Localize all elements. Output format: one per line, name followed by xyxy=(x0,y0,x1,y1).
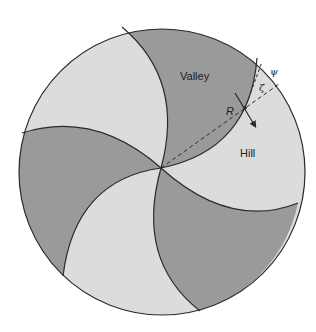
point-r xyxy=(243,106,247,110)
psi-label: ψ xyxy=(270,66,278,77)
point-r-label: R xyxy=(226,105,234,117)
valley-label: Valley xyxy=(180,70,210,82)
zeta-label: ζ xyxy=(259,82,265,93)
hill-label: Hill xyxy=(240,147,255,159)
pinwheel-diagram: Valley Hill R ψ ζ xyxy=(0,0,316,332)
